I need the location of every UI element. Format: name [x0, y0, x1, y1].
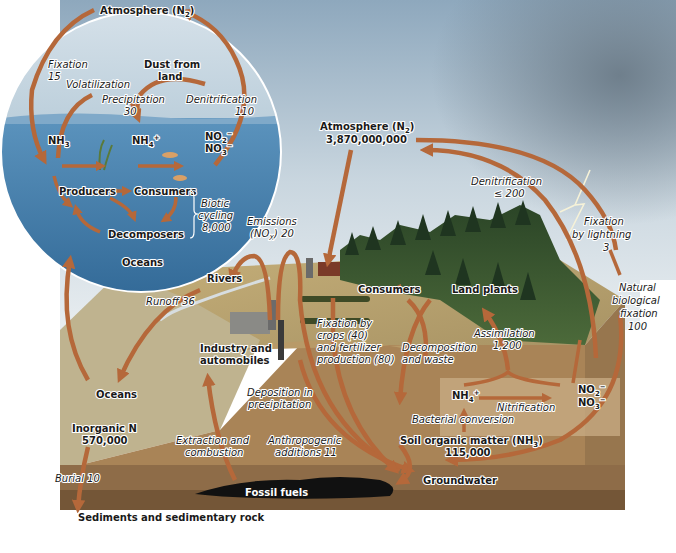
inset-denitrification-value: 110 [235, 106, 254, 117]
inset-fixation-value: 15 [48, 71, 61, 82]
decomposers-label: Decomposers [108, 229, 184, 240]
land-plants-label: Land plants [452, 284, 518, 295]
fixation-lightning-label: Fixation [584, 216, 624, 227]
fish-icon [162, 152, 178, 158]
nitrogen-cycle-diagram: Atmosphere (N2) Fixation 15 Dust from la… [0, 0, 676, 553]
fixation-lightning-value: 3 [603, 242, 609, 253]
consumers-label: Consumers [358, 284, 421, 295]
barn [318, 262, 340, 276]
soil-organic-matter-value: 115,000 [445, 447, 491, 458]
silo [306, 258, 313, 278]
extraction-label-2: combustion [185, 447, 243, 458]
natural-fixation-label-2: biological [612, 295, 660, 306]
industry-label: Industry and [200, 343, 272, 354]
deposition-label: Deposition in [247, 387, 313, 398]
volatilization-label: Volatilization [66, 79, 130, 90]
anthropogenic-label: Anthropogenic [267, 435, 342, 446]
fossil-fuels-label: Fossil fuels [245, 487, 308, 498]
decomposition-label: Decomposition [402, 342, 477, 353]
precipitation-value: 30 [124, 106, 137, 117]
natural-fixation-label-3: fixation [620, 308, 658, 319]
dust-label-2: land [158, 71, 182, 82]
bacterial-conversion-label: Bacterial conversion [412, 414, 514, 425]
oceans-label: Oceans [96, 389, 137, 400]
assimilation-label: Assimilation [473, 328, 535, 339]
groundwater-label: Groundwater [423, 475, 497, 486]
anthropogenic-label-2: additions 11 [275, 447, 337, 458]
fixation-crops-label-4: production (80) [316, 354, 395, 365]
emissions-label: Emissions [247, 216, 297, 227]
decomposition-label-2: and waste [402, 354, 454, 365]
deposition-label-2: precipitation [247, 399, 311, 410]
inset-fixation-label: Fixation [48, 59, 88, 70]
runoff-label: Runoff 36 [146, 296, 195, 307]
fish-icon [173, 175, 187, 181]
inorganic-n-label: Inorganic N [72, 423, 137, 434]
precipitation-label: Precipitation [102, 94, 165, 105]
fixation-lightning-label-2: by lightning [572, 229, 631, 240]
natural-fixation-label: Natural [619, 282, 656, 293]
biotic-cycling-label-2: cycling [198, 210, 233, 221]
fixation-crops-label: Fixation by [317, 318, 373, 329]
industry-label-2: automobiles [200, 355, 270, 366]
atmosphere-value: 3,870,000,000 [326, 134, 407, 145]
inset-consumers-label: Consumers [134, 186, 197, 197]
extraction-label: Extraction and [176, 435, 250, 446]
dust-label: Dust from [144, 59, 200, 70]
rivers-label: Rivers [207, 273, 242, 284]
inset-denitrification-label: Denitrification [186, 94, 257, 105]
denitrification-label: Denitrification [471, 176, 542, 187]
burial-label: Burial 10 [55, 473, 100, 484]
biotic-cycling-label: Biotic [201, 198, 229, 209]
producers-label: Producers [59, 186, 116, 197]
fixation-crops-label-2: crops (40) [317, 330, 368, 341]
natural-fixation-value: 100 [628, 321, 647, 332]
sediments-label: Sediments and sedimentary rock [78, 512, 264, 523]
fixation-crops-label-3: and fertilizer [317, 342, 381, 353]
inset-oceans-label: Oceans [122, 257, 163, 268]
nitrification-label: Nitrification [497, 402, 555, 413]
inorganic-n-value: 570,000 [82, 435, 128, 446]
denitrification-value: ≤ 200 [494, 188, 525, 199]
assimilation-value: 1,200 [493, 340, 522, 351]
biotic-cycling-value: 8,000 [202, 222, 231, 233]
